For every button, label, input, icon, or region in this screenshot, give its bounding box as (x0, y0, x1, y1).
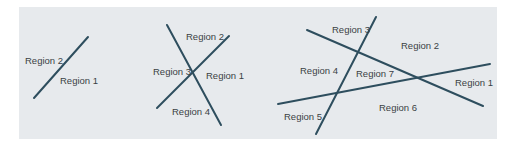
region-label: Region 2 (25, 55, 63, 66)
region-label: Region 6 (379, 102, 417, 113)
line-region-diagrams: Region 2Region 1Region 2Region 3Region 1… (0, 0, 514, 149)
region-label: Region 2 (401, 40, 439, 51)
region-label: Region 3 (332, 24, 370, 35)
region-label: Region 4 (172, 106, 210, 117)
lines-layer (34, 17, 490, 134)
region-label: Region 1 (455, 77, 493, 88)
region-label: Region 5 (284, 111, 322, 122)
region-label: Region 3 (153, 66, 191, 77)
region-label: Region 1 (60, 75, 98, 86)
region-label: Region 1 (206, 70, 244, 81)
region-label: Region 2 (186, 31, 224, 42)
region-label: Region 7 (356, 68, 394, 79)
region-label: Region 4 (300, 65, 338, 76)
dividing-line (34, 37, 88, 98)
labels-layer: Region 2Region 1Region 2Region 3Region 1… (25, 24, 493, 122)
